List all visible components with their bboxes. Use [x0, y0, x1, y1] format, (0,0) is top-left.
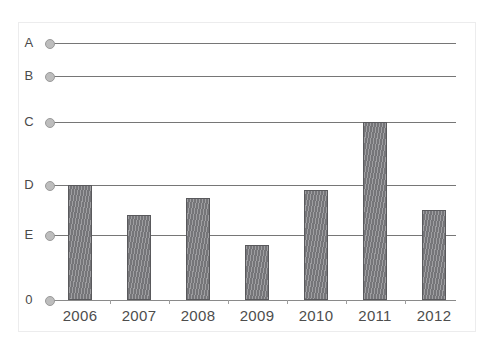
y-tick-label: A: [18, 35, 40, 50]
y-tick-label: E: [18, 227, 40, 242]
y-tick-label: D: [18, 177, 40, 192]
x-tick-label: 2012: [402, 307, 466, 324]
x-tick-label: 2007: [107, 307, 171, 324]
gridline-d: [50, 185, 456, 186]
gridline-b: [50, 76, 456, 77]
x-tick-label: 2011: [343, 307, 407, 324]
y-tick-label: C: [18, 114, 40, 129]
bar-2006: [68, 185, 92, 300]
axis-marker-b-icon: [45, 72, 55, 82]
x-tick-label: 2008: [166, 307, 230, 324]
bar-2009: [245, 245, 269, 300]
x-axis-tick: [346, 300, 347, 304]
bar-2011: [363, 122, 387, 300]
x-tick-label: 2010: [284, 307, 348, 324]
bar-2010: [304, 190, 328, 300]
x-axis-tick: [405, 300, 406, 304]
x-tick-label: 2006: [48, 307, 112, 324]
y-tick-label: B: [18, 68, 40, 83]
axis-marker-e-icon: [45, 231, 55, 241]
gridline-e: [50, 235, 456, 236]
bar-2007: [127, 215, 151, 300]
y-tick-label: 0: [18, 292, 40, 307]
x-axis-tick: [228, 300, 229, 304]
axis-marker-a-icon: [45, 39, 55, 49]
gridline-a: [50, 43, 456, 44]
x-tick-label: 2009: [225, 307, 289, 324]
axis-marker-c-icon: [45, 118, 55, 128]
x-axis-tick: [169, 300, 170, 304]
axis-marker-0-icon: [45, 296, 55, 306]
bar-chart-figure: ABCDE0 2006200720082009201020112012: [0, 0, 496, 353]
bar-2008: [186, 198, 210, 300]
gridline-c: [50, 122, 456, 123]
x-axis-tick: [287, 300, 288, 304]
x-axis-tick: [110, 300, 111, 304]
gridline-0: [50, 300, 456, 301]
axis-marker-d-icon: [45, 181, 55, 191]
bar-2012: [422, 210, 446, 300]
